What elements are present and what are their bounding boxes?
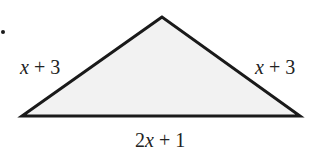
base-variable: x <box>145 129 154 151</box>
base-coefficient: 2 <box>135 129 145 151</box>
left-side-variable: x <box>20 56 29 78</box>
right-side-label: x + 3 <box>255 57 295 77</box>
left-side-constant: + 3 <box>29 56 60 78</box>
base-constant: + 1 <box>154 129 185 151</box>
base-label: 2x + 1 <box>135 130 185 150</box>
left-side-label: x + 3 <box>20 57 60 77</box>
bullet-dot <box>1 30 5 34</box>
right-side-constant: + 3 <box>264 56 295 78</box>
right-side-variable: x <box>255 56 264 78</box>
triangle-figure: x + 3 x + 3 2x + 1 <box>0 0 313 158</box>
